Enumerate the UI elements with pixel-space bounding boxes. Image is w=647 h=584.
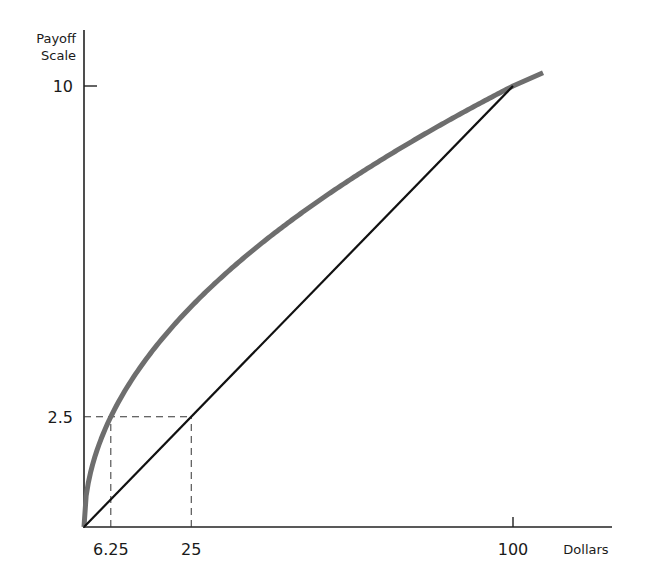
y-axis-label-line1: Payoff (36, 31, 77, 46)
y-tick-label: 2.5 (48, 408, 73, 427)
x-tick-label: 6.25 (93, 540, 129, 559)
linear-line (84, 86, 513, 527)
x-axis-label: Dollars (563, 542, 608, 557)
payoff-chart: Payoff Scale Dollars 6.25251002.510 (0, 0, 647, 584)
x-tick-label: 25 (181, 540, 201, 559)
utility-curve (84, 73, 543, 527)
y-tick-label: 10 (53, 77, 73, 96)
axis-labels: Payoff Scale Dollars 6.25251002.510 (36, 31, 609, 559)
x-tick-label: 100 (498, 540, 529, 559)
data-series (84, 73, 543, 527)
y-axis-label-line2: Scale (41, 48, 76, 63)
